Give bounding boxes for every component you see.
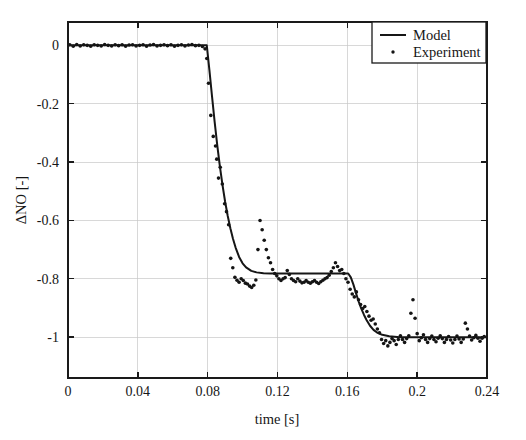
experiment-point (267, 256, 271, 260)
x-tick-label: 0.24 (475, 384, 500, 399)
experiment-point (89, 44, 93, 48)
x-tick-label: 0.2 (408, 384, 426, 399)
experiment-point (229, 257, 233, 261)
experiment-point (466, 327, 470, 331)
experiment-point (138, 44, 142, 48)
experiment-point (459, 341, 463, 345)
x-tick-label: 0.16 (335, 384, 360, 399)
experiment-point (103, 43, 107, 47)
experiment-point (329, 270, 333, 274)
experiment-point (438, 334, 442, 338)
experiment-point (359, 303, 363, 307)
experiment-point (380, 338, 384, 342)
experiment-point (283, 276, 287, 280)
experiment-point (110, 44, 114, 48)
experiment-point (155, 44, 159, 48)
experiment-point (262, 238, 266, 242)
experiment-point (443, 341, 447, 345)
experiment-point (197, 44, 201, 48)
experiment-point (190, 43, 194, 47)
experiment-point (96, 44, 100, 48)
experiment-point (367, 314, 371, 318)
experiment-point (269, 261, 273, 265)
experiment-point (461, 337, 465, 341)
experiment-point (227, 223, 231, 227)
experiment-point (434, 340, 438, 344)
experiment-point (350, 292, 354, 296)
experiment-point (205, 57, 209, 61)
experiment-point (223, 202, 227, 206)
experiment-point (417, 339, 421, 343)
experiment-point (176, 44, 180, 48)
experiment-point (478, 339, 482, 343)
experiment-point (209, 114, 213, 118)
experiment-point (392, 339, 396, 343)
experiment-point (420, 336, 424, 340)
experiment-point (413, 316, 417, 320)
x-axis-title: time [s] (255, 411, 300, 427)
experiment-point (332, 266, 336, 270)
experiment-point (353, 295, 357, 299)
experiment-point (252, 283, 256, 287)
experiment-point (288, 273, 292, 277)
legend-experiment-dot-sample (391, 50, 394, 53)
experiment-point (457, 337, 461, 341)
experiment-point (376, 327, 380, 331)
experiment-point (254, 278, 258, 282)
experiment-point (271, 268, 275, 272)
experiment-point (397, 338, 401, 342)
experiment-point (203, 47, 207, 51)
experiment-point (131, 43, 135, 47)
y-tick-label: -0.6 (37, 213, 59, 228)
experiment-point (346, 280, 350, 284)
experiment-point (218, 166, 222, 170)
experiment-point (183, 44, 187, 48)
experiment-point (334, 261, 338, 265)
experiment-point (363, 305, 367, 309)
experiment-point (373, 322, 377, 326)
experiment-point (382, 342, 386, 346)
experiment-point (194, 44, 198, 48)
experiment-point (464, 321, 468, 325)
experiment-point (365, 310, 369, 314)
grid-lines (68, 22, 487, 378)
experiment-point (476, 337, 480, 341)
experiment-point (415, 332, 419, 336)
experiment-point (207, 81, 211, 85)
legend[interactable]: Model Experiment (372, 22, 486, 63)
experiment-point (411, 298, 415, 302)
experiment-point (394, 343, 398, 347)
experiment-point (405, 337, 409, 341)
experiment-point (285, 269, 289, 273)
experiment-point (78, 44, 82, 48)
y-axis-title: ΔNO [-] (13, 176, 29, 224)
experiment-point (256, 248, 260, 252)
experiment-point (99, 44, 103, 48)
experiment-point (451, 341, 455, 345)
experiment-point (169, 43, 173, 47)
experiment-point (407, 334, 411, 338)
experiment-point (113, 43, 117, 47)
experiment-point (173, 44, 177, 48)
experiment-point (124, 44, 128, 48)
experiment-point (344, 277, 348, 281)
x-tick-label: 0 (65, 384, 72, 399)
experiment-point (260, 228, 264, 232)
experiment-point (221, 182, 225, 186)
experiment-point (401, 338, 405, 342)
experiment-point (106, 44, 110, 48)
experiment-point (85, 44, 89, 48)
experiment-point (327, 273, 331, 277)
experiment-point (162, 43, 166, 47)
x-tick-label: 0.04 (126, 384, 151, 399)
experiment-point (388, 341, 392, 345)
experiment-point (275, 274, 279, 278)
y-tick-label: -0.4 (37, 155, 59, 170)
experiment-point (340, 268, 344, 272)
experiment-point (159, 44, 163, 48)
experiment-point (453, 338, 457, 342)
experiment-point (117, 44, 121, 48)
legend-label-model: Model (413, 27, 451, 43)
experiment-point (430, 334, 434, 338)
experiment-point (82, 43, 86, 47)
